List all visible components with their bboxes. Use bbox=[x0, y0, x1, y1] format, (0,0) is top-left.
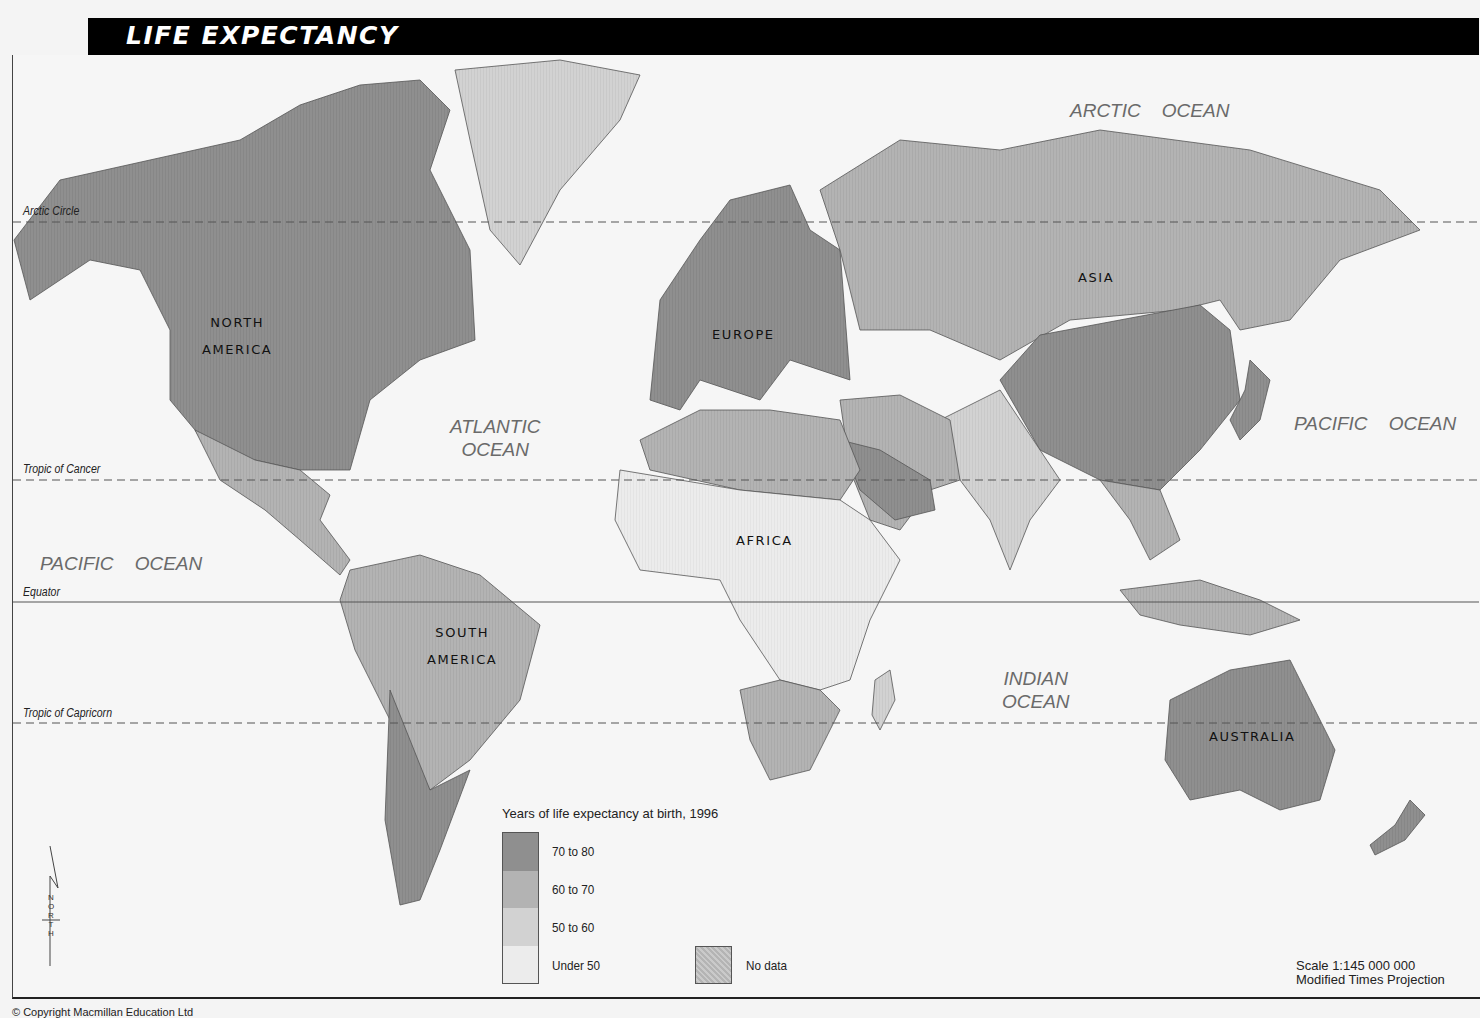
arctic-ocean-label: ARCTIC OCEAN bbox=[1070, 99, 1229, 122]
africa-label: AFRICA bbox=[736, 527, 793, 554]
equator-label: Equator bbox=[23, 585, 60, 599]
region-southeast-asia bbox=[1100, 480, 1300, 635]
tropic-of-cancer-label: Tropic of Cancer bbox=[23, 462, 100, 476]
legend-label-60-70: 60 to 70 bbox=[552, 882, 594, 897]
pacific-ocean-east-label: PACIFIC OCEAN bbox=[1294, 412, 1456, 435]
legend-label-no-data: No data bbox=[746, 958, 787, 973]
asia-label: ASIA bbox=[1078, 264, 1114, 291]
north-arrow-label: N O R T H bbox=[46, 893, 56, 938]
map-scale: Scale 1:145 000 000 Modified Times Proje… bbox=[1296, 959, 1445, 987]
legend-swatch-70-80 bbox=[503, 833, 538, 871]
australia-label: AUSTRALIA bbox=[1209, 723, 1295, 750]
legend-title: Years of life expectancy at birth, 1996 bbox=[502, 806, 718, 821]
legend-label-70-80: 70 to 80 bbox=[552, 844, 594, 859]
legend-swatch-no-data bbox=[695, 946, 732, 984]
projection-name: Modified Times Projection bbox=[1296, 973, 1445, 987]
copyright-notice: © Copyright Macmillan Education Ltd bbox=[12, 1006, 193, 1018]
region-new-zealand bbox=[1370, 800, 1425, 855]
region-sub-saharan-africa bbox=[615, 470, 900, 690]
tropic-of-capricorn-label: Tropic of Capricorn bbox=[23, 706, 112, 720]
legend-swatch-under-50 bbox=[503, 946, 538, 984]
scale-ratio: Scale 1:145 000 000 bbox=[1296, 959, 1445, 973]
region-greenland bbox=[455, 60, 640, 265]
arctic-circle-label: Arctic Circle bbox=[23, 204, 79, 218]
legend-color-bar bbox=[502, 832, 539, 984]
legend-swatch-60-70 bbox=[503, 871, 538, 909]
south-america-label: SOUTH AMERICA bbox=[427, 619, 497, 673]
region-europe bbox=[650, 185, 850, 410]
atlantic-ocean-label: ATLANTIC OCEAN bbox=[450, 415, 540, 461]
legend-label-under-50: Under 50 bbox=[552, 958, 600, 973]
region-madagascar bbox=[872, 670, 895, 730]
region-north-america bbox=[14, 80, 475, 470]
legend-swatch-50-60 bbox=[503, 908, 538, 946]
north-america-label: NORTH AMERICA bbox=[202, 309, 272, 363]
europe-label: EUROPE bbox=[712, 321, 775, 348]
region-southern-africa bbox=[740, 680, 840, 780]
pacific-ocean-west-label: PACIFIC OCEAN bbox=[40, 552, 202, 575]
indian-ocean-label: INDIAN OCEAN bbox=[1002, 667, 1070, 713]
legend-label-50-60: 50 to 60 bbox=[552, 920, 594, 935]
